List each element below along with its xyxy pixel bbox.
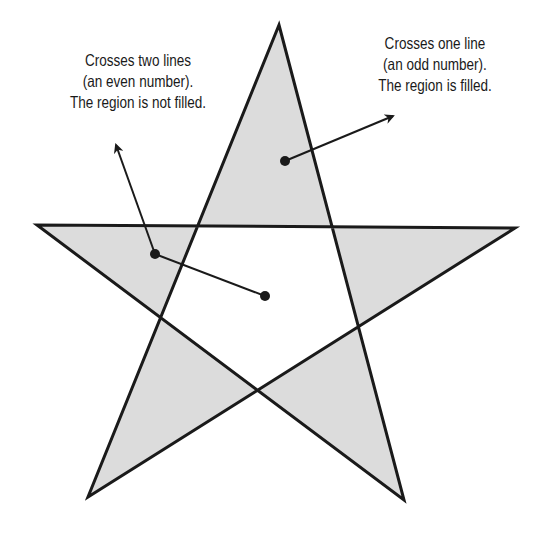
annotation-even-label: Crosses two lines (an even number). The … <box>48 50 228 113</box>
left-inner-dot <box>260 291 270 301</box>
left-edge-dot <box>150 249 160 259</box>
annotation-odd-line-1: Crosses one line <box>349 33 521 54</box>
annotation-even-line-3: The region is not filled. <box>48 92 228 113</box>
annotation-even-line-2: (an even number). <box>48 71 228 92</box>
annotation-odd-line-2: (an odd number). <box>349 54 521 75</box>
annotation-odd-line-3: The region is filled. <box>349 75 521 96</box>
annotation-even-line-1: Crosses two lines <box>48 50 228 71</box>
annotation-odd-label: Crosses one line (an odd number). The re… <box>349 33 521 96</box>
right-dot <box>280 156 290 166</box>
